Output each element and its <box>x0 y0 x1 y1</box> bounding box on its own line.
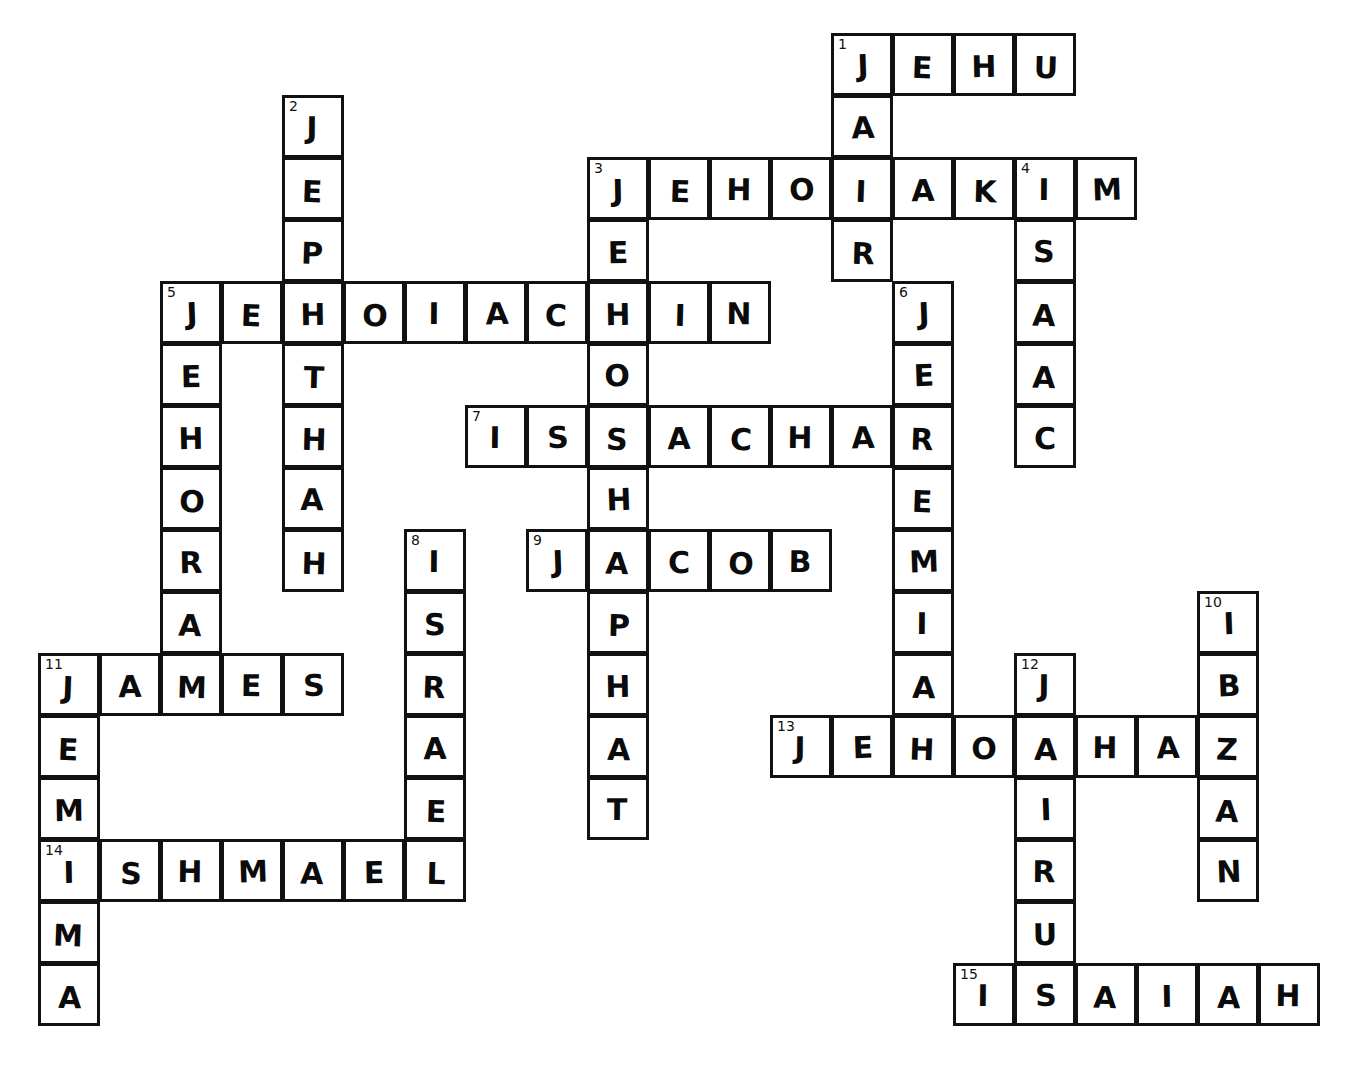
crossword-cell[interactable]: T <box>282 343 344 406</box>
crossword-cell[interactable]: A <box>465 281 527 344</box>
crossword-cell[interactable]: O <box>160 467 222 530</box>
crossword-cell[interactable]: H <box>1075 715 1137 778</box>
crossword-cell[interactable]: R <box>831 219 893 282</box>
crossword-cell[interactable]: E <box>892 33 954 96</box>
crossword-cell[interactable]: A <box>892 157 954 220</box>
crossword-cell[interactable]: A <box>892 653 954 716</box>
crossword-cell[interactable]: A <box>1197 777 1259 840</box>
crossword-cell[interactable]: R <box>892 405 954 468</box>
crossword-cell[interactable]: I <box>1014 777 1076 840</box>
crossword-cell[interactable]: N <box>1197 839 1259 902</box>
crossword-cell[interactable]: I <box>404 281 466 344</box>
crossword-cell[interactable]: A <box>404 715 466 778</box>
crossword-cell[interactable]: M <box>38 901 100 964</box>
crossword-cell[interactable]: T <box>587 777 649 840</box>
crossword-cell[interactable]: R <box>160 529 222 592</box>
crossword-cell[interactable]: A <box>99 653 161 716</box>
crossword-cell[interactable]: R <box>1014 839 1076 902</box>
crossword-cell[interactable]: S <box>1014 963 1076 1026</box>
crossword-cell[interactable]: U <box>1014 33 1076 96</box>
crossword-cell[interactable]: N <box>709 281 771 344</box>
crossword-cell[interactable]: E <box>160 343 222 406</box>
crossword-cell[interactable]: A <box>1197 963 1259 1026</box>
crossword-cell[interactable]: 10I <box>1197 591 1259 654</box>
crossword-cell[interactable]: S <box>282 653 344 716</box>
crossword-cell[interactable]: 13J <box>770 715 832 778</box>
crossword-cell[interactable]: I <box>831 157 893 220</box>
crossword-cell[interactable]: C <box>648 529 710 592</box>
crossword-cell[interactable]: S <box>99 839 161 902</box>
crossword-cell[interactable]: E <box>892 467 954 530</box>
crossword-cell[interactable]: H <box>953 33 1015 96</box>
crossword-cell[interactable]: H <box>587 653 649 716</box>
crossword-cell[interactable]: C <box>709 405 771 468</box>
crossword-cell[interactable]: E <box>343 839 405 902</box>
crossword-cell[interactable]: H <box>282 529 344 592</box>
crossword-cell[interactable]: E <box>831 715 893 778</box>
crossword-cell[interactable]: H <box>892 715 954 778</box>
crossword-cell[interactable]: H <box>1258 963 1320 1026</box>
crossword-cell[interactable]: 5J <box>160 281 222 344</box>
crossword-cell[interactable]: A <box>831 405 893 468</box>
crossword-cell[interactable]: 11J <box>38 653 100 716</box>
crossword-cell[interactable]: A <box>648 405 710 468</box>
crossword-cell[interactable]: 2J <box>282 95 344 158</box>
crossword-cell[interactable]: E <box>587 219 649 282</box>
crossword-cell[interactable]: P <box>587 591 649 654</box>
crossword-cell[interactable]: S <box>1014 219 1076 282</box>
crossword-cell[interactable]: I <box>648 281 710 344</box>
crossword-cell[interactable]: 12J <box>1014 653 1076 716</box>
crossword-cell[interactable]: E <box>38 715 100 778</box>
crossword-cell[interactable]: C <box>526 281 588 344</box>
crossword-cell[interactable]: E <box>282 157 344 220</box>
crossword-cell[interactable]: A <box>282 839 344 902</box>
crossword-cell[interactable]: O <box>587 343 649 406</box>
crossword-cell[interactable]: E <box>221 653 283 716</box>
crossword-cell[interactable]: 14I <box>38 839 100 902</box>
crossword-cell[interactable]: A <box>1014 343 1076 406</box>
crossword-cell[interactable]: S <box>404 591 466 654</box>
crossword-cell[interactable]: 1J <box>831 33 893 96</box>
crossword-cell[interactable]: P <box>282 219 344 282</box>
crossword-cell[interactable]: A <box>1136 715 1198 778</box>
crossword-cell[interactable]: M <box>892 529 954 592</box>
crossword-cell[interactable]: O <box>343 281 405 344</box>
crossword-cell[interactable]: O <box>709 529 771 592</box>
crossword-cell[interactable]: H <box>282 281 344 344</box>
crossword-cell[interactable]: H <box>587 281 649 344</box>
crossword-cell[interactable]: H <box>709 157 771 220</box>
crossword-cell[interactable]: C <box>1014 405 1076 468</box>
crossword-cell[interactable]: M <box>1075 157 1137 220</box>
crossword-cell[interactable]: A <box>38 963 100 1026</box>
crossword-cell[interactable]: H <box>160 839 222 902</box>
crossword-cell[interactable]: 6J <box>892 281 954 344</box>
crossword-cell[interactable]: H <box>160 405 222 468</box>
crossword-cell[interactable]: A <box>1014 715 1076 778</box>
crossword-cell[interactable]: A <box>587 715 649 778</box>
crossword-cell[interactable]: B <box>1197 653 1259 716</box>
crossword-cell[interactable]: S <box>526 405 588 468</box>
crossword-cell[interactable]: O <box>770 157 832 220</box>
crossword-cell[interactable]: E <box>648 157 710 220</box>
crossword-cell[interactable]: 8I <box>404 529 466 592</box>
crossword-cell[interactable]: E <box>404 777 466 840</box>
crossword-cell[interactable]: H <box>587 467 649 530</box>
crossword-cell[interactable]: 9J <box>526 529 588 592</box>
crossword-cell[interactable]: U <box>1014 901 1076 964</box>
crossword-cell[interactable]: 4I <box>1014 157 1076 220</box>
crossword-cell[interactable]: A <box>282 467 344 530</box>
crossword-cell[interactable]: 3J <box>587 157 649 220</box>
crossword-cell[interactable]: M <box>221 839 283 902</box>
crossword-cell[interactable]: L <box>404 839 466 902</box>
crossword-cell[interactable]: I <box>1136 963 1198 1026</box>
crossword-cell[interactable]: E <box>221 281 283 344</box>
crossword-cell[interactable]: A <box>831 95 893 158</box>
crossword-cell[interactable]: A <box>1075 963 1137 1026</box>
crossword-cell[interactable]: H <box>770 405 832 468</box>
crossword-cell[interactable]: B <box>770 529 832 592</box>
crossword-cell[interactable]: I <box>892 591 954 654</box>
crossword-cell[interactable]: 15I <box>953 963 1015 1026</box>
crossword-cell[interactable]: A <box>160 591 222 654</box>
crossword-cell[interactable]: M <box>38 777 100 840</box>
crossword-cell[interactable]: O <box>953 715 1015 778</box>
